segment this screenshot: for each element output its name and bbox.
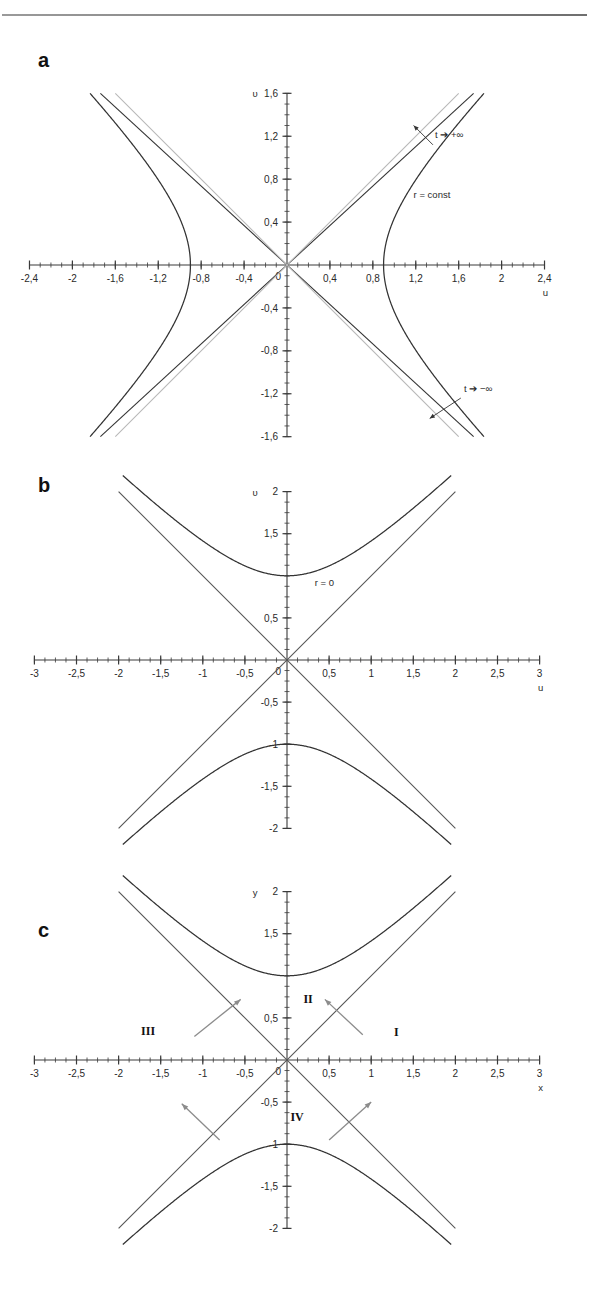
panel-c-plot: -3-2,5-2-1,5-1-0,50,511,522,5321,50,5-0,… (0, 860, 593, 1296)
y-axis-tick-label: -0,5 (261, 1097, 279, 1108)
y-axis-label: y (253, 887, 258, 898)
region-label-I: I (394, 1025, 399, 1039)
x-axis-tick-label: -1,2 (150, 273, 168, 284)
annotation-2: r = const (414, 189, 451, 200)
arrow-lower-left (182, 1104, 220, 1140)
x-axis-tick-label: 1,2 (409, 273, 423, 284)
y-axis-tick-label: -1,5 (261, 781, 279, 792)
annotation-1: r = 0 (315, 577, 334, 588)
x-axis-tick-label: -2 (68, 273, 77, 284)
x-axis-tick-label: 3 (537, 1068, 543, 1079)
x-axis-tick-label: 1,5 (406, 1068, 420, 1079)
panel-c-letter: c (38, 920, 49, 940)
x-axis-tick-label: -1 (198, 1068, 207, 1079)
y-axis-tick-label: -0,5 (261, 697, 279, 708)
x-axis-tick-label: -2,5 (68, 1068, 86, 1079)
y-axis-tick-label: -2 (269, 1223, 278, 1234)
x-axis-tick-label: -1,5 (152, 668, 170, 679)
x-axis-tick-label: 2,5 (491, 668, 505, 679)
panel-b-letter: b (38, 475, 50, 495)
y-axis-tick-label: 0,5 (264, 1013, 278, 1024)
x-axis-tick-label: 0,5 (322, 1068, 336, 1079)
panel-c: c -3-2,5-2-1,5-1-0,50,511,522,5321,50,5-… (0, 860, 593, 1296)
y-axis-tick-label: 0,5 (264, 613, 278, 624)
y-axis-tick-label: -2 (269, 823, 278, 834)
y-axis-tick-label: 2 (272, 886, 278, 897)
x-axis-tick-label: -2 (114, 668, 123, 679)
annotation-1: t ➔ +∞ (435, 129, 463, 140)
x-axis-tick-label: 3 (537, 668, 543, 679)
x-axis-tick-label: -0,8 (193, 273, 211, 284)
panel-a-plot: -2,4-2-1,6-1,2-0,8-0,40,40,81,21,622,41,… (0, 40, 593, 450)
x-axis-tick-label: -2 (114, 1068, 123, 1079)
panel-b-plot: -3-2,5-2-1,5-1-0,50,511,522,5321,50,5-0,… (0, 450, 593, 860)
x-axis-tick-label: -3 (30, 668, 39, 679)
y-axis-tick-label: -1,6 (261, 431, 279, 442)
y-axis-tick-label: 0,4 (264, 217, 278, 228)
y-axis-tick-label: 2 (272, 486, 278, 497)
y-axis-tick-label: 1,2 (264, 131, 278, 142)
y-axis-tick-label: 1,5 (264, 928, 278, 939)
figure-root: a -2,4-2-1,6-1,2-0,8-0,40,40,81,21,622,4… (0, 0, 593, 1296)
x-axis-tick-label: 0,8 (366, 273, 380, 284)
y-axis-label: υ (252, 88, 257, 99)
origin-label: 0 (275, 1066, 281, 1077)
x-axis-label: u (543, 287, 548, 298)
y-axis-tick-label: -0,8 (261, 345, 279, 356)
y-axis-label: υ (252, 487, 257, 498)
x-axis-tick-label: -1,6 (107, 273, 125, 284)
region-label-III: III (141, 1024, 155, 1038)
y-axis-tick-label: 0,8 (264, 174, 278, 185)
x-axis-tick-label: -1 (198, 668, 207, 679)
panel-a-letter: a (38, 50, 49, 70)
panel-b: b -3-2,5-2-1,5-1-0,50,511,522,5321,50,5-… (0, 450, 593, 860)
panel-a: a -2,4-2-1,6-1,2-0,8-0,40,40,81,21,622,4… (0, 40, 593, 450)
x-axis-tick-label: -2,5 (68, 668, 86, 679)
x-axis-tick-label: 2 (453, 1068, 459, 1079)
x-axis-tick-label: 1 (368, 668, 374, 679)
x-axis-tick-label: -0,4 (235, 273, 253, 284)
y-axis-tick-label: -0,4 (261, 303, 279, 314)
x-axis-tick-label: 1 (368, 1068, 374, 1079)
x-axis-label: u (538, 682, 543, 693)
y-axis-tick-label: -1,2 (261, 388, 279, 399)
y-axis-tick-label: 1,6 (264, 88, 278, 99)
y-axis-tick-label: 1,5 (264, 528, 278, 539)
x-axis-tick-label: 2,4 (538, 273, 552, 284)
x-axis-tick-label: 2 (499, 273, 505, 284)
x-axis-label: x (538, 1082, 543, 1093)
x-axis-tick-label: -1,5 (152, 1068, 170, 1079)
arrow-upper-left (194, 999, 240, 1036)
x-axis-tick-label: 0,4 (323, 273, 337, 284)
x-axis-tick-label: 2,5 (491, 1068, 505, 1079)
y-axis-tick-label: -1,5 (261, 1181, 279, 1192)
header-rule (2, 14, 587, 16)
origin-label: 0 (275, 666, 281, 677)
x-axis-tick-label: -0,5 (236, 668, 254, 679)
x-axis-tick-label: -0,5 (236, 1068, 254, 1079)
x-axis-tick-label: 2 (453, 668, 459, 679)
region-label-II: II (303, 992, 313, 1006)
x-axis-tick-label: 1,6 (452, 273, 466, 284)
x-axis-tick-label: -3 (30, 1068, 39, 1079)
x-axis-tick-label: -2,4 (21, 273, 39, 284)
region-label-IV: IV (290, 1110, 304, 1124)
x-axis-tick-label: 0,5 (322, 668, 336, 679)
x-axis-tick-label: 1,5 (406, 668, 420, 679)
annotation-3: t ➔ −∞ (464, 383, 492, 394)
